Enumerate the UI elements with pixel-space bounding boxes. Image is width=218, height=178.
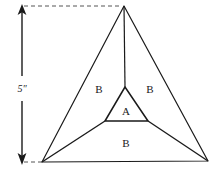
connector-bottom-left-line — [42, 121, 105, 162]
figure-container: 5" B B A B — [0, 0, 218, 178]
region-label-b-bottom: B — [122, 138, 129, 149]
region-label-b-right: B — [146, 84, 153, 95]
region-label-b-left: B — [95, 84, 102, 95]
dimension-label-height: 5" — [17, 84, 26, 94]
connector-bottom-right-line — [148, 121, 208, 161]
triangle-diagram-svg — [0, 0, 218, 178]
region-label-a-center: A — [122, 106, 130, 117]
connector-apex-line — [124, 6, 125, 87]
